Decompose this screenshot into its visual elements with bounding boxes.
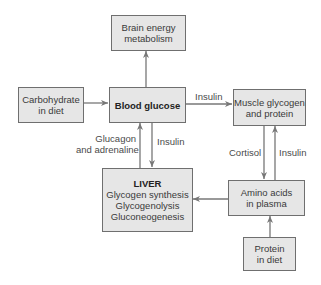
node-protein-in-diet: Protein in diet	[243, 237, 296, 271]
edge-label-insulin-glucose-muscle: Insulin	[195, 91, 222, 102]
node-label: and protein	[246, 108, 294, 119]
node-label: in diet	[257, 254, 282, 265]
node-label: Glycogen synthesis	[106, 189, 188, 200]
node-label: Brain energy	[122, 22, 176, 33]
node-title: LIVER	[134, 178, 162, 189]
edge-label-line: and adrenaline	[76, 144, 136, 155]
node-title: Blood glucose	[115, 100, 180, 111]
edge-label-line: Glucagon	[76, 133, 136, 144]
node-liver: LIVER Glycogen synthesis Glycogenolysis …	[102, 168, 193, 232]
node-label: Amino acids	[241, 187, 293, 198]
edge-label-insulin-glucose-liver: Insulin	[157, 136, 184, 147]
node-muscle-glycogen-and-protein: Muscle glycogen and protein	[233, 89, 306, 126]
edge-label-glucagon-adrenaline: Glucagon and adrenaline	[76, 133, 136, 155]
node-label: in plasma	[246, 198, 287, 209]
node-amino-acids-in-plasma: Amino acids in plasma	[228, 180, 305, 216]
node-label: Carbohydrate	[22, 94, 80, 105]
edge-label-insulin-amino-muscle: Insulin	[279, 147, 306, 158]
node-label: Gluconeogenesis	[111, 211, 184, 222]
node-label: Protein	[254, 243, 284, 254]
node-label: in diet	[38, 105, 63, 116]
node-label: Glycogenolysis	[116, 200, 180, 211]
node-label: metabolism	[124, 33, 173, 44]
node-label: Muscle glycogen	[234, 97, 305, 108]
edge-label-cortisol: Cortisol	[229, 147, 261, 158]
node-carbohydrate-in-diet: Carbohydrate in diet	[18, 87, 84, 123]
node-brain-energy-metabolism: Brain energy metabolism	[111, 15, 186, 51]
node-blood-glucose: Blood glucose	[109, 87, 186, 123]
